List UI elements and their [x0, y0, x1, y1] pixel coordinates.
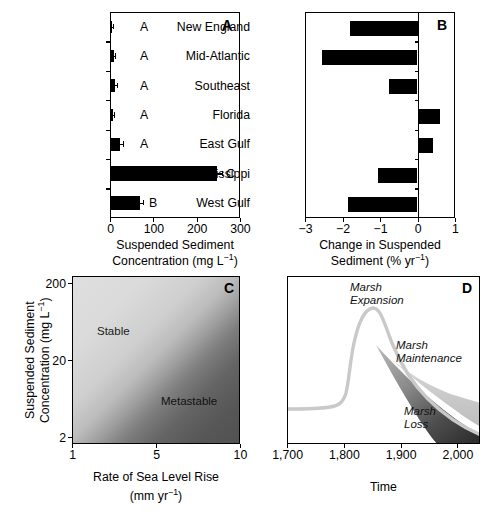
panel-a-ytick — [106, 41, 110, 42]
panel-c-plot-area: Stable Metastable — [72, 276, 240, 444]
bar-b-new-england — [350, 21, 418, 36]
figure-root: A New England Mid-Atlantic Southeast Flo… — [0, 0, 484, 527]
panel-a-xticklabel-200: 200 — [187, 222, 208, 236]
errorbar-mississippi — [212, 173, 223, 174]
panel-d-xticklabel-1800: 1,800 — [329, 448, 360, 462]
significance-label-mississippi: C — [226, 167, 235, 181]
significance-label-southeast: A — [140, 79, 148, 93]
panel-a-ytick — [106, 130, 110, 131]
panel-d-region-maintenance-line2: Maintenance — [396, 352, 462, 365]
category-label-mid-atlantic: Mid-Atlantic — [146, 49, 250, 63]
panel-c-yaxis-exponent: −1 — [36, 302, 46, 312]
panel-d-letter: D — [462, 281, 472, 295]
panel-c-yaxis-title-text2: Concentration (mg L — [38, 312, 52, 423]
panel-a-ytick — [106, 100, 110, 101]
panel-b-ytick — [415, 159, 419, 160]
panel-b-xticklabel-m3: −3 — [299, 222, 313, 236]
panel-c-yaxis-title-end: ) — [38, 297, 52, 301]
panel-c-xaxis-title-2: (mm yr−1) — [70, 489, 242, 504]
panel-a-xticklabel-300: 300 — [230, 222, 251, 236]
panel-c-ytick — [68, 283, 72, 284]
panel-d-region-loss-line1: Marsh — [404, 405, 436, 418]
bar-b-east-gulf — [418, 138, 433, 153]
panel-c-yaxis-title-text1: Suspended Sediment — [23, 301, 37, 419]
panel-d-region-maintenance: Marsh Maintenance — [396, 339, 462, 365]
panel-d-xticklabel-1900: 1,900 — [386, 448, 417, 462]
significance-label-west-gulf: B — [149, 196, 157, 210]
category-label-florida: Florida — [146, 108, 250, 122]
panel-a-xaxis-title-line1: Suspended Sediment — [116, 238, 234, 252]
errorbar-cap-new-england — [113, 24, 114, 30]
panel-c-xaxis-exponent: −1 — [168, 487, 178, 497]
bar-b-florida — [418, 109, 441, 124]
panel-c-region-metastable: Metastable — [161, 395, 217, 407]
panel-a-xticklabel-0: 0 — [107, 222, 114, 236]
panel-b-xaxis-title: Change in Suspended — [300, 238, 460, 253]
significance-label-east-gulf: A — [140, 137, 148, 151]
bar-b-southeast — [389, 79, 417, 94]
panel-d-region-loss: Marsh Loss — [404, 405, 436, 431]
errorbar-cap-florida — [114, 112, 115, 118]
panel-a-ytick — [106, 188, 110, 189]
panel-d-xticklabel-1700: 1,700 — [272, 448, 303, 462]
category-label-west-gulf: West Gulf — [146, 196, 250, 210]
panel-b-xticklabel-m1: −1 — [374, 222, 388, 236]
panel-d-xaxis-title: Time — [287, 480, 480, 495]
panel-d-region-maintenance-line1: Marsh — [396, 339, 462, 352]
category-label-east-gulf: East Gulf — [146, 137, 250, 151]
panel-b-ytick — [415, 100, 419, 101]
panel-c-xaxis-title-line2: (mm yr — [130, 489, 168, 503]
errorbar-cap-west-gulf — [143, 200, 144, 206]
panel-d-region-expansion: Marsh Expansion — [350, 281, 404, 307]
panel-a: A New England Mid-Atlantic Southeast Flo… — [0, 0, 250, 258]
panel-a-ytick — [106, 159, 110, 160]
panel-b-ytick — [415, 188, 419, 189]
errorbar-cap-mississippi — [222, 171, 223, 177]
panel-b-letter: B — [437, 18, 447, 32]
panel-c-region-stable: Stable — [97, 325, 130, 337]
panel-c-yaxis-title-line2: Concentration (mg L−1) — [38, 275, 53, 445]
panel-b-ytick — [415, 130, 419, 131]
panel-d-xticklabel-2000: 2,000 — [443, 448, 474, 462]
errorbar-cap-mid-atlantic — [115, 53, 116, 59]
errorbar-cap-east-gulf — [123, 141, 124, 147]
panel-b-ytick — [415, 71, 419, 72]
panel-c-xticklabel-1: 1 — [69, 448, 76, 462]
panel-d-region-expansion-line1: Marsh — [350, 281, 404, 294]
bar-mississippi — [111, 166, 217, 181]
panel-b-ytick — [415, 41, 419, 42]
errorbar-west-gulf — [135, 203, 143, 204]
panel-c: Stable Metastable C 200 20 2 1 5 10 Susp… — [0, 258, 250, 527]
bar-b-west-gulf — [348, 197, 417, 212]
panel-c-xaxis-title-line1: Rate of Sea Level Rise — [93, 470, 219, 484]
significance-label-mid-atlantic: A — [140, 49, 148, 63]
panel-c-xticklabel-10: 10 — [234, 448, 248, 462]
panel-c-letter: C — [224, 281, 234, 295]
panel-a-xticklabel-100: 100 — [144, 222, 165, 236]
panel-c-ytick — [68, 437, 72, 438]
panel-b-xticklabel-1: 1 — [452, 222, 459, 236]
panel-b-xaxis-title-line1: Change in Suspended — [319, 238, 441, 252]
panel-a-ytick — [106, 71, 110, 72]
panel-d-plot-area: Marsh Expansion Marsh Maintenance Marsh … — [287, 276, 480, 444]
panel-c-ytick — [68, 360, 72, 361]
panel-d-region-loss-line2: Loss — [404, 418, 436, 431]
panel-b-xticklabel-0: 0 — [415, 222, 422, 236]
panel-c-xticklabel-5: 5 — [153, 448, 160, 462]
bar-b-mid-atlantic — [322, 50, 418, 65]
significance-label-new-england: A — [140, 20, 148, 34]
panel-d-region-expansion-line2: Expansion — [350, 294, 404, 307]
panel-a-xaxis-title: Suspended Sediment — [110, 238, 240, 253]
significance-label-florida: A — [140, 108, 148, 122]
panel-b-xticklabel-m2: −2 — [336, 222, 350, 236]
errorbar-cap-southeast — [117, 83, 118, 89]
bar-b-mississippi — [378, 168, 417, 183]
panel-c-xaxis-title: Rate of Sea Level Rise — [70, 470, 242, 485]
panel-d: Marsh Expansion Marsh Maintenance Marsh … — [250, 258, 484, 527]
panel-b: B −3 −2 −1 0 1 Change in Suspended — [250, 0, 484, 258]
panel-c-gradient-map — [73, 277, 240, 444]
panel-c-xaxis-title-end: ) — [178, 489, 182, 503]
category-label-new-england: New England — [146, 20, 250, 34]
category-label-southeast: Southeast — [146, 79, 250, 93]
